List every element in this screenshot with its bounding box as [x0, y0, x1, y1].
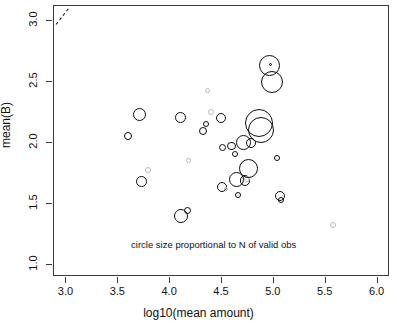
plot-panel: circle size proportional to N of valid o… [53, 5, 389, 276]
data-point-bubble [269, 63, 272, 66]
data-point-bubble [224, 187, 228, 191]
x-tick-label: 5.0 [253, 285, 293, 297]
y-tick-mark [46, 81, 52, 82]
x-tick-mark [377, 277, 378, 283]
x-tick-mark [65, 277, 66, 283]
x-tick-mark [325, 277, 326, 283]
y-tick-label: 2.0 [27, 130, 39, 152]
y-tick-mark [46, 20, 52, 21]
data-point-bubble [219, 144, 226, 151]
reference-dashed-line [56, 9, 69, 25]
x-tick-label: 6.0 [357, 285, 397, 297]
data-point-bubble [278, 197, 284, 203]
data-point-bubble [184, 207, 191, 214]
x-tick-label: 5.5 [305, 285, 345, 297]
x-tick-label: 4.0 [149, 285, 189, 297]
data-point-bubble [203, 121, 209, 127]
y-tick-mark [46, 203, 52, 204]
y-tick-label: 1.0 [27, 252, 39, 274]
data-point-bubble [235, 192, 241, 198]
x-tick-label: 3.5 [97, 285, 137, 297]
data-point-bubble [239, 159, 258, 178]
data-point-bubble [175, 112, 186, 123]
y-tick-label: 3.0 [27, 8, 39, 30]
y-tick-label: 1.5 [27, 191, 39, 213]
x-tick-label: 3.0 [45, 285, 85, 297]
y-tick-mark [46, 264, 52, 265]
data-point-bubble [145, 167, 151, 173]
data-point-bubble [330, 222, 336, 228]
y-tick-mark [46, 142, 52, 143]
y-axis-label: mean(B) [0, 95, 13, 155]
data-point-bubble [274, 155, 280, 161]
x-tick-label: 4.5 [201, 285, 241, 297]
x-axis-label: log10(mean amount) [0, 306, 397, 320]
data-point-bubble [199, 127, 207, 135]
data-point-bubble [248, 117, 274, 143]
data-point-bubble [124, 132, 132, 140]
data-point-bubble [216, 113, 226, 123]
x-tick-mark [117, 277, 118, 283]
scatter-plot-figure: circle size proportional to N of valid o… [0, 0, 397, 330]
size-legend-caption: circle size proportional to N of valid o… [131, 239, 296, 250]
data-point-bubble [208, 109, 214, 115]
data-point-bubble [136, 176, 147, 187]
data-point-bubble [186, 158, 191, 163]
y-tick-label: 2.5 [27, 69, 39, 91]
data-point-bubble [227, 142, 235, 150]
x-tick-mark [169, 277, 170, 283]
x-tick-mark [273, 277, 274, 283]
data-point-bubble [205, 88, 210, 93]
data-point-bubble [232, 151, 238, 157]
x-tick-mark [221, 277, 222, 283]
data-point-bubble [133, 108, 146, 121]
data-point-bubble [261, 71, 283, 93]
